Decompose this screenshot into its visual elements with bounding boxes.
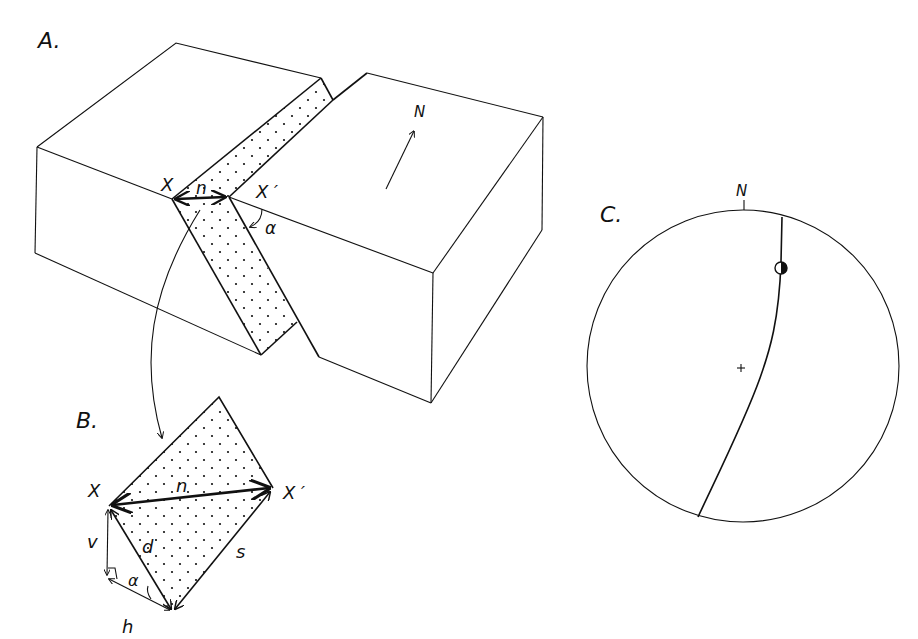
- fault-plane-lower-stipple: [172, 197, 297, 355]
- alpha-angle-arc: [250, 209, 262, 227]
- north-label-a: N: [414, 103, 425, 121]
- right-block-right-vertical: [542, 117, 543, 230]
- alpha-angle-arc-b: [147, 586, 151, 599]
- panel-c-label: C.: [600, 202, 622, 227]
- right-block-front-vertical: [431, 273, 433, 403]
- slip-lineation-pole-icon: [775, 262, 787, 274]
- vertical-component-v: [107, 510, 108, 575]
- left-block-top-front-edge: [37, 147, 172, 199]
- right-block-bottom-front-edge: [319, 357, 431, 403]
- separation-label-a: n: [196, 178, 207, 198]
- strike-slip-label-b: s: [236, 541, 245, 562]
- point-x-prime-label-b: X ′: [282, 482, 305, 503]
- alpha-label-a: α: [265, 218, 276, 238]
- point-x-prime-label-a: X ′: [255, 181, 278, 202]
- panel-a-block-diagram: [35, 43, 543, 438]
- alpha-label-b: α: [128, 571, 139, 590]
- vertical-label-b: v: [87, 531, 98, 552]
- figure-canvas: A. N X n X ′ α B. X X ′ n d s v h α C.: [0, 0, 918, 639]
- stereonet-primitive-circle: [587, 210, 899, 522]
- dip-slip-label-b: d: [142, 536, 154, 557]
- point-x-label-a: X: [160, 174, 174, 195]
- right-angle-mark: [108, 568, 117, 579]
- center-cross-icon: [737, 364, 745, 372]
- panel-b-label: B.: [76, 408, 98, 433]
- panel-a-label: A.: [36, 28, 60, 53]
- fault-great-circle: [698, 217, 782, 517]
- panel-c-stereonet: [587, 200, 899, 522]
- right-block-back-left-edge: [333, 73, 367, 100]
- horizontal-label-b: h: [122, 616, 133, 637]
- net-slip-label-b: n: [176, 475, 187, 496]
- point-x-label-b: X: [87, 480, 101, 501]
- right-block-top-right-edge: [433, 117, 543, 273]
- right-block-bottom-right-edge: [431, 230, 542, 403]
- north-label-c: N: [736, 182, 747, 200]
- right-block-back-edge: [367, 73, 543, 117]
- left-block-left-edge: [35, 147, 37, 253]
- north-arrow-icon: [386, 131, 414, 189]
